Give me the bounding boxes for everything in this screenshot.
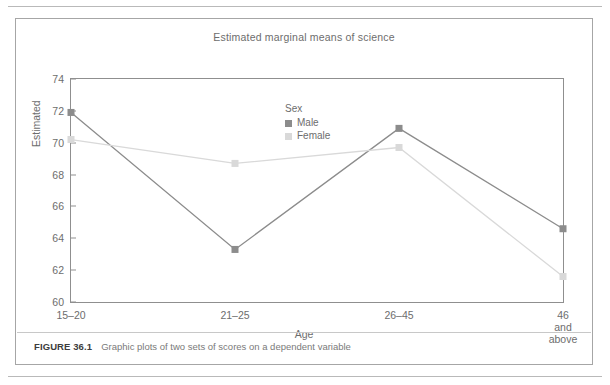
- figure-box: Estimated marginal means of science 6062…: [15, 18, 593, 365]
- legend-title: Sex: [285, 103, 330, 114]
- legend: Sex Male Female: [285, 103, 330, 142]
- data-point-female-0[interactable]: [68, 136, 75, 143]
- chart-title: Estimated marginal means of science: [16, 31, 592, 43]
- data-point-male-2[interactable]: [396, 125, 403, 132]
- figure-page: Estimated marginal means of science 6062…: [0, 0, 610, 385]
- x-axis-tick: 21–25: [220, 309, 249, 321]
- caption-label: FIGURE 36.1: [34, 341, 92, 352]
- legend-swatch-male: [285, 120, 292, 127]
- data-point-female-3[interactable]: [560, 273, 567, 280]
- x-axis-tick: 26–45: [384, 309, 413, 321]
- data-point-male-1[interactable]: [232, 246, 239, 253]
- page-rule-top: [8, 6, 602, 7]
- y-axis-label: Estimated: [30, 100, 42, 147]
- data-point-male-3[interactable]: [560, 225, 567, 232]
- y-axis-tick: 62: [52, 264, 71, 276]
- y-axis-tick: 64: [52, 232, 71, 244]
- x-axis-tick: 15–20: [56, 309, 85, 321]
- legend-swatch-female: [285, 133, 292, 140]
- y-axis-tick: 60: [52, 296, 71, 308]
- page-rule-bottom: [8, 376, 602, 377]
- legend-label-male: Male: [297, 117, 319, 129]
- legend-item-female[interactable]: Female: [285, 130, 330, 142]
- legend-item-male[interactable]: Male: [285, 117, 330, 129]
- figure-caption: FIGURE 36.1Graphic plots of two sets of …: [34, 341, 574, 352]
- data-point-male-0[interactable]: [68, 109, 75, 116]
- caption-text: Graphic plots of two sets of scores on a…: [101, 341, 351, 352]
- data-point-female-2[interactable]: [396, 144, 403, 151]
- x-axis-label: Age: [16, 328, 592, 340]
- y-axis-tick: 66: [52, 200, 71, 212]
- data-point-female-1[interactable]: [232, 160, 239, 167]
- y-axis-tick: 74: [52, 73, 71, 85]
- caption-divider: [17, 332, 591, 333]
- series-line-female: [71, 140, 563, 277]
- y-axis-tick: 68: [52, 169, 71, 181]
- legend-label-female: Female: [297, 130, 330, 142]
